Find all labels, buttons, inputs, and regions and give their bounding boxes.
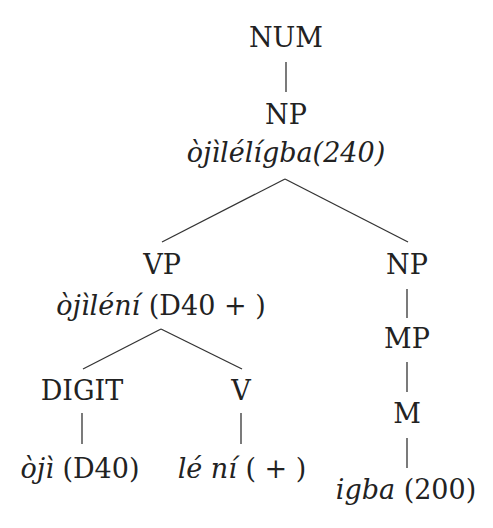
node-mp: MP — [384, 325, 430, 352]
digit-leaf-word: òjì — [21, 453, 54, 484]
node-m: M — [393, 400, 421, 427]
node-np-top-gloss: òjìlélígba(240) — [187, 139, 385, 166]
edge-np-vp — [162, 179, 285, 242]
m-leaf-value: (200) — [404, 474, 477, 505]
vp-gloss-value: (D40 + ) — [149, 290, 266, 321]
edge-vp-v — [161, 329, 242, 369]
node-v: V — [231, 377, 251, 404]
node-vp-gloss: òjìléní (D40 + ) — [56, 292, 265, 319]
node-digit-leaf: òjì (D40) — [21, 455, 140, 482]
v-leaf-word: lé ní — [178, 453, 237, 484]
node-v-leaf: lé ní ( + ) — [178, 455, 307, 482]
node-vp: VP — [143, 251, 181, 278]
node-num: NUM — [249, 24, 323, 51]
syntax-tree: NUM NP òjìlélígba(240) VP òjìléní (D40 +… — [0, 0, 493, 528]
edge-np-np-right — [285, 179, 408, 242]
edge-vp-digit — [83, 329, 161, 369]
node-digit: DIGIT — [41, 377, 124, 404]
v-leaf-value: ( + ) — [245, 453, 306, 484]
node-m-leaf: igba (200) — [336, 476, 477, 503]
m-leaf-word: igba — [336, 474, 395, 505]
node-np-right: NP — [386, 251, 428, 278]
vp-gloss-word: òjìléní — [56, 290, 140, 321]
digit-leaf-value: (D40) — [62, 453, 139, 484]
node-np-top: NP — [265, 101, 307, 128]
